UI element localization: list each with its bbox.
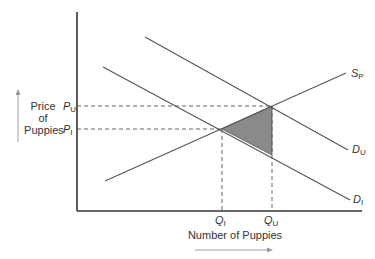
qi-label: QI <box>215 214 226 228</box>
supply-label: SP <box>351 67 364 81</box>
y-axis-label-line3: Puppies <box>24 124 64 136</box>
supply-demand-diagram: Price of Puppies PU PI QI QU Number of P… <box>0 0 375 259</box>
demand-informed-label: DI <box>353 193 363 207</box>
pi-sub: I <box>70 128 72 137</box>
qi-sub: I <box>224 219 226 228</box>
y-axis-label-line2: of <box>38 112 48 124</box>
di-sub: I <box>361 198 363 207</box>
supply-curve <box>105 73 346 181</box>
pi-label: PI <box>63 123 73 137</box>
supply-sub: P <box>358 72 363 81</box>
qu-label: QU <box>264 214 279 228</box>
du-main: D <box>352 143 360 155</box>
x-axis-label: Number of Puppies <box>188 229 283 241</box>
di-main: D <box>353 193 361 205</box>
demand-uninformed-label: DU <box>352 143 366 157</box>
quantity-arrowhead-icon <box>267 248 273 253</box>
pu-label: PU <box>63 100 76 114</box>
y-axis-label-line1: Price <box>30 100 55 112</box>
pu-sub: U <box>70 105 76 114</box>
price-arrowhead-icon <box>16 89 21 95</box>
du-sub: U <box>360 148 366 157</box>
demand-informed-curve <box>103 67 350 200</box>
deadweight-loss-triangle <box>222 106 272 155</box>
qu-sub: U <box>273 219 279 228</box>
